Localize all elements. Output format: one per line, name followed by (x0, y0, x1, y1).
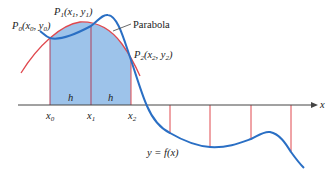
parabola-pointer (113, 24, 131, 31)
label-function: y = f(x) (146, 147, 179, 159)
simpson-rule-diagram: P0(x0, y0) P1(x1, y1) Parabola P2(x2, y2… (0, 0, 326, 170)
label-x1: x1 (86, 110, 95, 123)
label-x0: x0 (45, 110, 55, 123)
label-h-left: h (68, 92, 73, 103)
label-h-right: h (108, 92, 113, 103)
label-p0: P0(x0, y0) (11, 20, 51, 33)
label-parabola: Parabola (133, 19, 170, 30)
label-p1: P1(x1, y1) (53, 6, 93, 19)
label-x2: x2 (127, 110, 137, 123)
label-x-axis: x (319, 99, 325, 110)
label-p2: P2(x2, y2) (133, 49, 173, 62)
x-axis-arrow-icon (311, 102, 318, 108)
